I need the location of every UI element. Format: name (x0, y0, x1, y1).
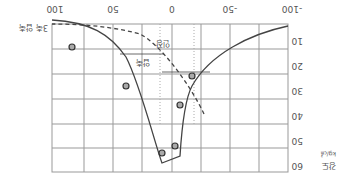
data-points (69, 44, 195, 156)
chart: 100 50 0 -50 -100 10 20 30 40 50 60 강도 k… (0, 0, 340, 184)
svg-text:50: 50 (107, 4, 119, 14)
svg-text:10: 10 (291, 36, 303, 46)
triaxial-label: 3축 압축 (19, 23, 48, 32)
compression-label: 압축 (136, 58, 150, 67)
svg-text:60: 60 (291, 161, 303, 171)
svg-text:20: 20 (291, 61, 303, 71)
y-axis-title: 강도 (322, 161, 336, 171)
range-arrows (120, 54, 210, 72)
svg-text:100: 100 (46, 4, 63, 14)
y-axis-unit: kg/㎠ (321, 150, 336, 158)
svg-text:-50: -50 (222, 4, 237, 14)
tension-label: 인장 (155, 39, 170, 49)
triaxial-compression-curve (52, 24, 204, 114)
y-tick-labels: 10 20 30 40 50 60 (291, 36, 303, 171)
svg-text:30: 30 (291, 86, 303, 96)
svg-text:50: 50 (291, 136, 303, 146)
svg-text:-100: -100 (282, 4, 303, 14)
svg-text:0: 0 (169, 4, 175, 14)
svg-text:40: 40 (291, 111, 303, 121)
x-tick-labels: 100 50 0 -50 -100 (46, 4, 302, 14)
rotated-chart-svg: 100 50 0 -50 -100 10 20 30 40 50 60 강도 k… (0, 0, 340, 184)
